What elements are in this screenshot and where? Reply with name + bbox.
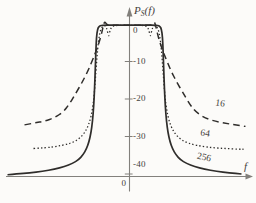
y-tick-label--40: -40 <box>133 160 146 169</box>
y-tick-label--10: -10 <box>133 57 146 66</box>
y-tick-label--20: -20 <box>133 94 146 103</box>
y-axis-title-argument: (f) <box>144 4 154 16</box>
psd-figure: PS(f) 0-10-20-30-40 f 0 16 64 256 <box>0 0 256 203</box>
x-axis-arrowhead-icon <box>246 174 254 180</box>
curve-16 <box>25 22 246 126</box>
y-tick-label--30: -30 <box>133 132 146 141</box>
origin-label: 0 <box>110 178 126 188</box>
x-axis-title: f <box>244 160 247 172</box>
y-tick-label-0: 0 <box>133 26 138 35</box>
y-axis-arrowhead-icon <box>127 7 133 17</box>
y-axis-title: PS(f) <box>134 5 155 18</box>
y-axis-title-symbol: P <box>134 4 141 16</box>
